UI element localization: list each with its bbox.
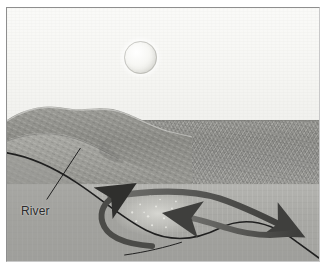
sun-outline xyxy=(124,41,157,74)
nutrients-label: Nutrients accumulating xyxy=(63,236,135,261)
headland-grain-texture xyxy=(7,107,192,194)
foreground-water xyxy=(7,184,319,261)
headland-shape xyxy=(7,78,192,193)
coastal-headland xyxy=(7,78,192,193)
sun-icon xyxy=(124,41,157,74)
water-texture xyxy=(7,184,319,261)
figure-frame: River Nutrients accumulating xyxy=(6,7,320,262)
river-label: River xyxy=(21,205,50,218)
illustration-scene: River Nutrients accumulating xyxy=(7,8,319,261)
figure-root: River Nutrients accumulating xyxy=(0,0,328,273)
